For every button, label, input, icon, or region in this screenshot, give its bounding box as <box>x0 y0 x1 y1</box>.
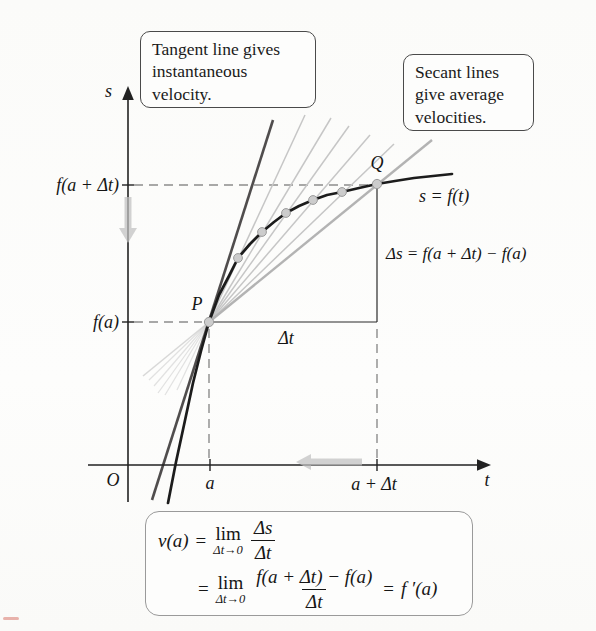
point-q-label: Q <box>371 153 384 173</box>
tangent-callout: Tangent line gives instantaneous velocit… <box>140 31 316 108</box>
delta-t-label: Δt <box>277 328 295 348</box>
formula-equals-1: = <box>196 530 207 552</box>
point-q-dot <box>372 179 381 188</box>
f-a-label: f(a) <box>93 312 119 333</box>
a-plus-dt-label: a + Δt <box>351 474 398 494</box>
delta-s-equation-label: Δs = f(a + Δt) − f(a) <box>385 244 527 263</box>
f-a-plus-dt-label: f(a + Δt) <box>56 175 119 196</box>
formula-line-2: = lim Δt→0 f(a + Δt) − f(a) Δt = f ′(a) <box>198 564 462 614</box>
s-axis-arrowhead-icon <box>122 86 134 100</box>
tangent-callout-text: Tangent line gives instantaneous velocit… <box>152 39 280 104</box>
point-p-dot <box>204 317 213 326</box>
secant-callout: Secant lines give average velocities. <box>403 54 534 131</box>
formula-frac-ds-dt: Δs Δt <box>250 517 277 564</box>
curve-equation-label: s = f(t) <box>419 186 469 207</box>
scan-artifact <box>3 617 19 620</box>
limit-arrow-down-icon <box>119 197 137 243</box>
a-label: a <box>206 473 215 493</box>
dashed-guides <box>134 185 377 464</box>
position-curve <box>168 174 452 503</box>
secant-pq-line <box>209 140 432 322</box>
formula-line-1: v(a) = lim Δt→0 Δs Δt <box>158 517 462 564</box>
t-axis-label: t <box>484 470 490 490</box>
formula-f-prime: f ′(a) <box>401 578 437 600</box>
velocity-formula-box: v(a) = lim Δt→0 Δs Δt = lim Δt→0 f(a + Δ… <box>145 511 473 616</box>
formula-equals-3: = <box>383 578 394 600</box>
formula-lim-1: lim Δt→0 <box>213 524 243 557</box>
formula-lim-2: lim Δt→0 <box>216 573 246 606</box>
formula-equals-2: = <box>198 578 209 600</box>
origin-label: O <box>107 470 120 490</box>
point-p-label: P <box>191 294 203 314</box>
formula-frac-difference-quotient: f(a + Δt) − f(a) Δt <box>252 566 376 613</box>
textbook-figure: s t O a a + Δt f(a + Δt) f(a) P Q s = f(… <box>0 0 596 631</box>
secant-callout-text: Secant lines give average velocities. <box>415 62 504 127</box>
s-axis-label: s <box>105 81 112 101</box>
limit-arrow-left-icon <box>296 454 362 470</box>
formula-v-of-a: v(a) <box>158 530 189 552</box>
